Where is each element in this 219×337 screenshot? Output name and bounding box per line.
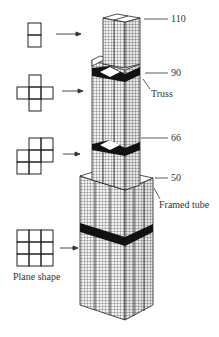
plan-9-tubes [17, 230, 53, 266]
floor-label-90: 90 [171, 68, 181, 78]
plane-shape-caption: Plane shape [13, 272, 61, 282]
plan-2-tubes [28, 23, 41, 47]
tower-diagram [0, 0, 219, 337]
floor-label-66: 66 [171, 133, 181, 143]
tower-top-section [103, 14, 140, 68]
truss-label: Truss [151, 89, 173, 99]
floor-label-110: 110 [171, 14, 186, 24]
framed-tube-label: Framed tube [159, 200, 209, 210]
arrow-icon [56, 32, 83, 250]
plan-5-tubes [17, 75, 53, 111]
tower-base-section [80, 168, 153, 320]
leader-truss [143, 79, 150, 89]
leader-framed-tube [154, 188, 160, 199]
floor-label-50: 50 [171, 173, 181, 183]
plan-7-tubes [17, 138, 53, 174]
